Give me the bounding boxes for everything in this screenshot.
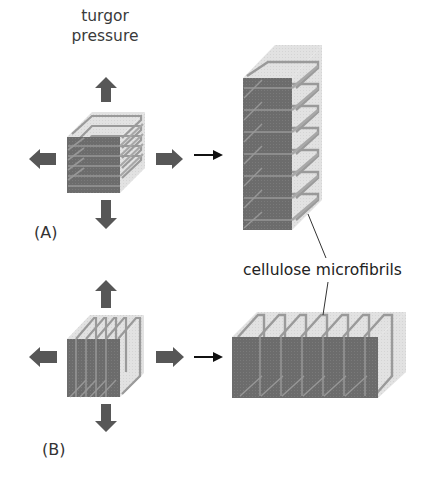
- diagram-canvas: [0, 0, 421, 478]
- panel-b: [29, 280, 406, 432]
- panel-a: [29, 45, 326, 258]
- transition-arrow-b-icon: [194, 352, 223, 362]
- elongated-cell-b: [232, 312, 406, 398]
- turgor-pressure-label: turgor pressure: [68, 6, 142, 46]
- elongated-cell-a: [243, 45, 322, 230]
- callout-leader-b: [323, 282, 328, 315]
- left-arrow-icon: [29, 149, 56, 169]
- transition-arrow-a-icon: [194, 150, 223, 160]
- turgor-label-line-2: pressure: [68, 26, 142, 46]
- left-arrow-icon: [29, 347, 57, 367]
- cell-cube-a: [67, 112, 145, 193]
- callout-leader-a: [308, 214, 326, 258]
- right-arrow-icon: [156, 149, 183, 169]
- cellulose-microfibrils-label: cellulose microfibrils: [243, 262, 402, 279]
- down-arrow-icon: [95, 404, 117, 432]
- panel-b-label: (B): [42, 441, 65, 458]
- down-arrow-icon: [95, 200, 117, 229]
- up-arrow-icon: [95, 77, 117, 102]
- turgor-label-line-1: turgor: [68, 6, 142, 26]
- right-arrow-icon: [156, 347, 184, 367]
- panel-a-label: (A): [34, 224, 57, 241]
- cell-cube-b: [67, 315, 144, 397]
- up-arrow-icon: [95, 280, 117, 308]
